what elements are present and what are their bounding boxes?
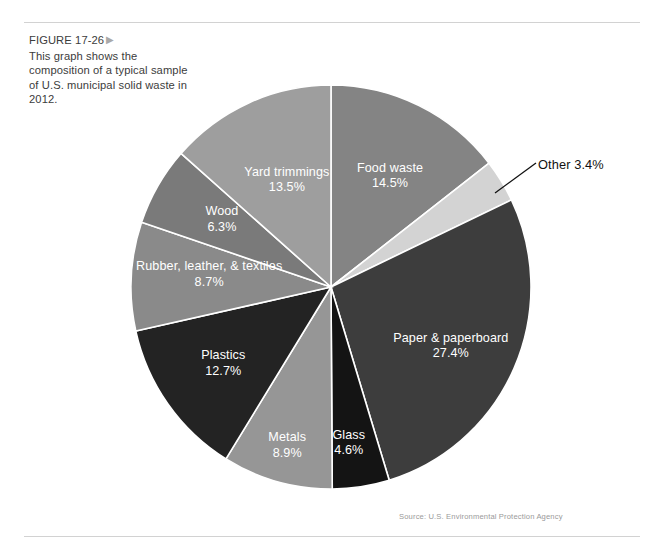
pie-chart: Food waste14.5%Paper & paperboard27.4%Gl… <box>0 0 664 552</box>
pie-chart-svg <box>0 0 664 552</box>
figure-container: FIGURE 17-26▶ This graph shows the compo… <box>0 0 664 552</box>
other-leader-line <box>495 163 536 193</box>
source-note: Source: U.S. Environmental Protection Ag… <box>399 512 563 521</box>
other-callout-label: Other 3.4% <box>538 157 604 172</box>
pie-slices <box>131 85 531 489</box>
